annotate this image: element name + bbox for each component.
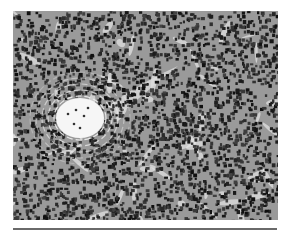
micrograph-image [13, 11, 278, 220]
caption-rule-divider [13, 228, 277, 230]
tissue-texture [13, 11, 278, 220]
